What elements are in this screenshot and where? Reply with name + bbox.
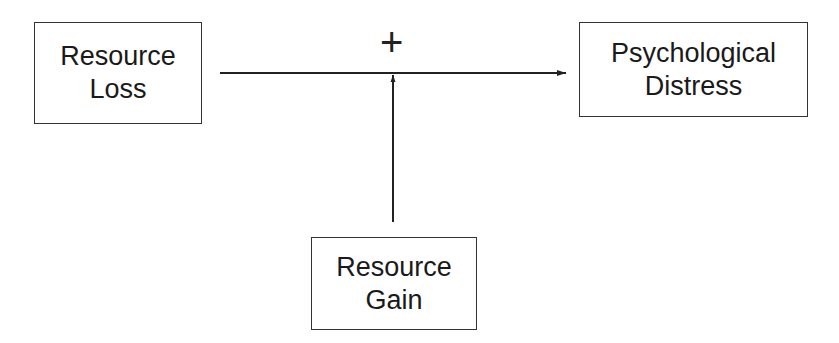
resource-gain-line-2: Gain (365, 284, 422, 317)
resource-loss-line-2: Loss (89, 73, 146, 106)
resource-loss-box: Resource Loss (34, 22, 202, 124)
positive-sign: + (380, 22, 403, 62)
resource-gain-line-1: Resource (336, 251, 452, 284)
psychological-distress-box: Psychological Distress (579, 22, 808, 117)
resource-gain-box: Resource Gain (311, 237, 477, 330)
psychological-distress-line-1: Psychological (611, 37, 776, 70)
psychological-distress-line-2: Distress (645, 70, 743, 103)
resource-loss-line-1: Resource (60, 40, 176, 73)
